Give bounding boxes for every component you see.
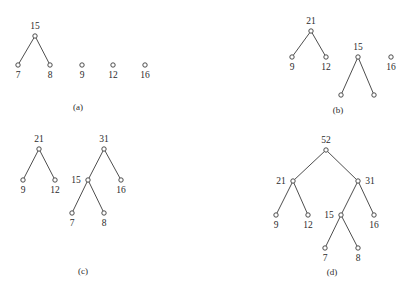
tree-edge	[19, 38, 34, 63]
node-circle-icon	[306, 213, 310, 217]
huffman-figure: 157891216(a)219121516(b)2131912151678(c)…	[0, 0, 404, 297]
tree-edge	[293, 33, 309, 55]
tree-node-9: 9	[80, 63, 85, 80]
tree-node-15: 15	[71, 175, 90, 185]
node-circle-icon	[53, 178, 57, 182]
node-label: 12	[50, 185, 60, 195]
node-circle-icon	[356, 179, 360, 183]
node-label: 8	[102, 218, 107, 228]
tree-edge	[24, 151, 38, 178]
tree-edge	[89, 151, 103, 178]
edge-group	[277, 152, 373, 247]
tree-node-8: 8	[356, 246, 361, 263]
tree-node-9: 9	[290, 55, 295, 72]
node-circle-icon	[372, 213, 376, 217]
tree-node-31: 31	[99, 134, 109, 151]
node-circle-icon	[102, 211, 106, 215]
node-circle-icon	[21, 178, 25, 182]
node-circle-icon	[389, 55, 393, 59]
tree-node-unlabeled	[339, 93, 343, 97]
node-label: 52	[321, 135, 331, 145]
tree-edge	[359, 183, 373, 213]
node-circle-icon	[80, 63, 84, 67]
tree-node-16: 16	[116, 178, 126, 195]
tree-edge	[89, 182, 103, 211]
panel-caption-b: (b)	[333, 105, 344, 115]
tree-node-7: 7	[323, 246, 328, 263]
tree-edge	[295, 152, 325, 180]
tree-edge	[277, 183, 292, 213]
node-label: 12	[303, 220, 313, 230]
node-circle-icon	[16, 63, 20, 67]
tree-node-16: 16	[369, 213, 379, 230]
node-label: 7	[323, 253, 328, 263]
tree-node-21: 21	[306, 16, 316, 33]
node-circle-icon	[291, 179, 295, 183]
node-circle-icon	[274, 213, 278, 217]
node-circle-icon	[143, 63, 147, 67]
node-label: 9	[21, 185, 26, 195]
panel-caption-d: (d)	[327, 267, 338, 277]
node-circle-icon	[290, 55, 294, 59]
tree-node-15: 15	[353, 42, 363, 59]
node-label: 15	[71, 175, 81, 185]
panel-b: 219121516(b)	[290, 16, 396, 115]
tree-node-15: 15	[30, 21, 40, 38]
tree-edge	[359, 59, 373, 93]
node-label: 21	[276, 176, 286, 186]
node-circle-icon	[372, 93, 376, 97]
node-circle-icon	[324, 148, 328, 152]
node-label: 12	[108, 70, 118, 80]
tree-node-9: 9	[274, 213, 279, 230]
tree-edge	[294, 183, 307, 213]
node-circle-icon	[48, 63, 52, 67]
tree-edge	[342, 59, 357, 93]
tree-edge	[342, 217, 357, 246]
tree-edge	[105, 151, 120, 178]
node-circle-icon	[70, 211, 74, 215]
node-label: 21	[306, 16, 316, 26]
node-label: 12	[321, 62, 331, 72]
node-label: 16	[386, 62, 396, 72]
panel-caption-a: (a)	[73, 102, 83, 112]
tree-node-12: 12	[50, 178, 60, 195]
node-circle-icon	[111, 63, 115, 67]
tree-node-8: 8	[48, 63, 53, 80]
tree-node-21: 21	[276, 176, 295, 186]
node-label: 9	[274, 220, 279, 230]
node-label: 8	[48, 70, 53, 80]
node-label: 31	[99, 134, 109, 144]
node-circle-icon	[309, 29, 313, 33]
node-circle-icon	[324, 55, 328, 59]
tree-node-7: 7	[16, 63, 21, 80]
node-circle-icon	[339, 93, 343, 97]
tree-node-16: 16	[140, 63, 150, 80]
panel-caption-c: (c)	[78, 266, 88, 276]
tree-node-12: 12	[321, 55, 331, 72]
tree-edge	[36, 38, 49, 63]
node-label: 15	[30, 21, 40, 31]
node-circle-icon	[86, 178, 90, 182]
tree-node-12: 12	[303, 213, 313, 230]
tree-edge	[328, 152, 357, 180]
node-label: 8	[356, 253, 361, 263]
tree-node-unlabeled	[372, 93, 376, 97]
node-label: 21	[34, 134, 44, 144]
node-label: 7	[16, 70, 21, 80]
node-circle-icon	[102, 147, 106, 151]
tree-node-16: 16	[386, 55, 396, 72]
node-label: 15	[353, 42, 363, 52]
node-label: 7	[70, 218, 75, 228]
node-label: 16	[369, 220, 379, 230]
node-label: 16	[140, 70, 150, 80]
panel-c: 2131912151678(c)	[21, 134, 126, 276]
node-circle-icon	[323, 246, 327, 250]
node-circle-icon	[119, 178, 123, 182]
tree-node-7: 7	[70, 211, 75, 228]
tree-diagram-canvas: 157891216(a)219121516(b)2131912151678(c)…	[0, 0, 404, 297]
node-label: 9	[80, 70, 85, 80]
tree-node-12: 12	[108, 63, 118, 80]
tree-edge	[312, 33, 325, 55]
tree-edge	[40, 151, 54, 178]
node-label: 16	[116, 185, 126, 195]
